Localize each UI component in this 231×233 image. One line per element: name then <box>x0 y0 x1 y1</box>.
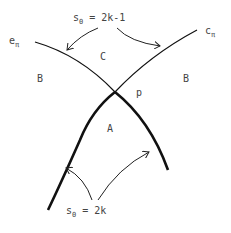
label-e-pi: eπ <box>9 36 19 50</box>
region-label-b-right: B <box>183 74 189 84</box>
region-label-a: A <box>107 124 113 134</box>
label-c-pi: cπ <box>205 26 215 40</box>
curve-e-pi-lower <box>115 92 168 170</box>
point-label-p: p <box>136 88 142 98</box>
region-label-c: C <box>100 52 106 62</box>
curve-e-pi-upper <box>35 42 115 92</box>
formula-top-rest: = 2k-1 <box>83 12 125 23</box>
diagram-canvas <box>0 0 231 233</box>
arrow-top-left <box>67 28 98 50</box>
arrow-top-right <box>117 28 160 46</box>
label-e-sub: π <box>15 41 19 49</box>
label-c-sub: π <box>211 31 215 39</box>
region-label-b-left: B <box>37 74 43 84</box>
arrow-bottom-right <box>98 152 149 200</box>
formula-bottom-rest: = 2k <box>76 205 106 216</box>
curve-c-pi-lower <box>48 92 115 210</box>
formula-top: s0 = 2k-1 <box>73 13 125 27</box>
formula-bottom: s0 = 2k <box>66 206 106 220</box>
arrow-bottom-left <box>66 168 92 200</box>
